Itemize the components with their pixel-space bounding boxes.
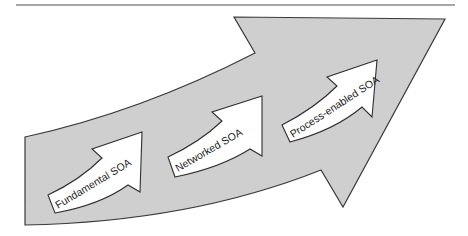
soa-evolution-diagram: Fundamental SOA Networked SOA Process-en…: [0, 0, 468, 236]
